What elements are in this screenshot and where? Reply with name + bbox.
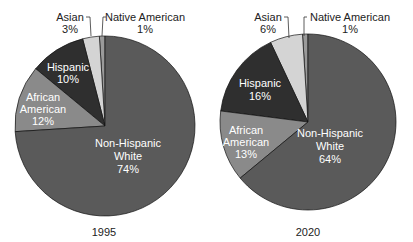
year-2020: 2020 [296,226,320,238]
label-hisp-pct: 16% [249,90,271,102]
label-afam-pct: 13% [235,148,257,160]
label-hisp: Hispanic [239,77,282,89]
label-asian: Asian [56,11,84,23]
label-afam-2: American [20,103,66,115]
label-native-pct: 1% [342,23,358,35]
label-asian: Asian [254,11,282,23]
label-white-2: White [316,140,344,152]
label-white: Non-Hispanic [297,127,364,139]
year-1995: 1995 [92,226,116,238]
label-hisp-pct: 10% [57,73,79,85]
label-afam-pct: 12% [32,115,54,127]
label-white-pct: 74% [117,163,139,175]
pie-charts: Non-Hispanic White 74% African American … [0,0,413,242]
pie-2020 [220,34,396,210]
label-afam-2: American [223,136,269,148]
label-asian-pct: 6% [260,23,276,35]
label-asian-pct: 3% [62,23,78,35]
label-native: Native American [310,11,390,23]
label-native: Native American [105,11,185,23]
label-white: Non-Hispanic [95,137,162,149]
label-native-pct: 1% [137,23,153,35]
label-afam: African [26,91,60,103]
label-afam: African [229,124,263,136]
label-white-pct: 64% [319,153,341,165]
label-hisp: Hispanic [47,61,90,73]
label-white-2: White [114,150,142,162]
